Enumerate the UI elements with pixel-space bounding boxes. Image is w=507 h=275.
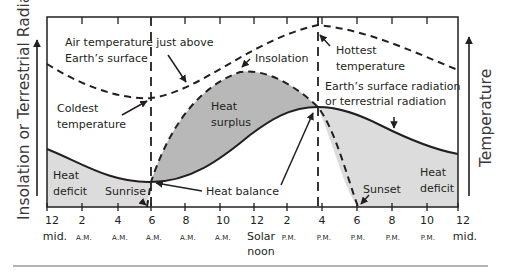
tick-hour: 6 [354,214,361,227]
tick-hour: 2 [284,214,291,227]
sunset-label: Sunset [363,183,401,196]
tick-hour: 10 [420,214,434,227]
tick-hour: 8 [183,214,190,227]
x-tick-labels: 12 mid. 2 A.M. 4 A.M. 6 A.M. 8 A.M. 10 A… [43,214,477,258]
heat-deficit-right-label-1: Heat [420,166,447,179]
heat-deficit-left-label-2: deficit [53,185,88,198]
tick-hour: 12 [456,214,470,227]
tick-sub: P.M. [282,234,296,242]
tick-sub: P.M. [386,234,400,242]
sunrise-label: Sunrise [105,185,146,198]
tick-sub: A.M. [215,234,231,242]
coldest-label-2: temperature [57,118,126,131]
tick-hour: 12 [45,214,59,227]
tick-sub: P.M. [317,234,331,242]
left-axis-title: Insolation or Terrestrial Radiation [15,0,33,220]
tick-hour: 12 [250,214,264,227]
tick-sub: mid. [43,230,67,243]
tick-sub: mid. [453,230,477,243]
terrestrial-label-1: Earth’s surface radiation [325,80,461,93]
tick-sub: Solar [247,230,276,243]
tick-sub: A.M. [180,234,196,242]
tick-sub: P.M. [421,234,435,242]
air-temp-label-1: Air temperature just above [65,36,214,49]
tick-hour: 10 [216,214,230,227]
heat-surplus-label-2: surplus [211,116,251,129]
terrestrial-label-2: or terrestrial radiation [325,95,446,108]
top-ticks [82,17,427,24]
tick-hour: 4 [115,214,122,227]
heat-deficit-right-label-2: deficit [420,182,455,195]
tick-hour: 8 [389,214,396,227]
tick-sub: A.M. [112,234,128,242]
tick-sub: A.M. [76,234,92,242]
tick-sub: P.M. [351,234,365,242]
tick-hour: 6 [149,214,156,227]
heat-surplus-label-1: Heat [211,100,238,113]
coldest-label-1: Coldest [57,102,99,115]
heat-balance-label: Heat balance [206,185,279,198]
tick-sub2: noon [247,245,274,258]
insolation-temperature-diagram: Insolation or Terrestrial Radiation Temp… [0,0,507,275]
hottest-label-1: Hottest [336,44,377,57]
air-temp-label-2: Earth’s surface [65,52,148,65]
insolation-label: Insolation [255,52,309,65]
hottest-label-2: temperature [336,60,405,73]
tick-hour: 2 [79,214,86,227]
right-axis-title: Temperature [477,69,495,168]
tick-hour: 4 [319,214,326,227]
tick-sub: A.M. [146,234,162,242]
heat-deficit-left-label-1: Heat [53,169,80,182]
